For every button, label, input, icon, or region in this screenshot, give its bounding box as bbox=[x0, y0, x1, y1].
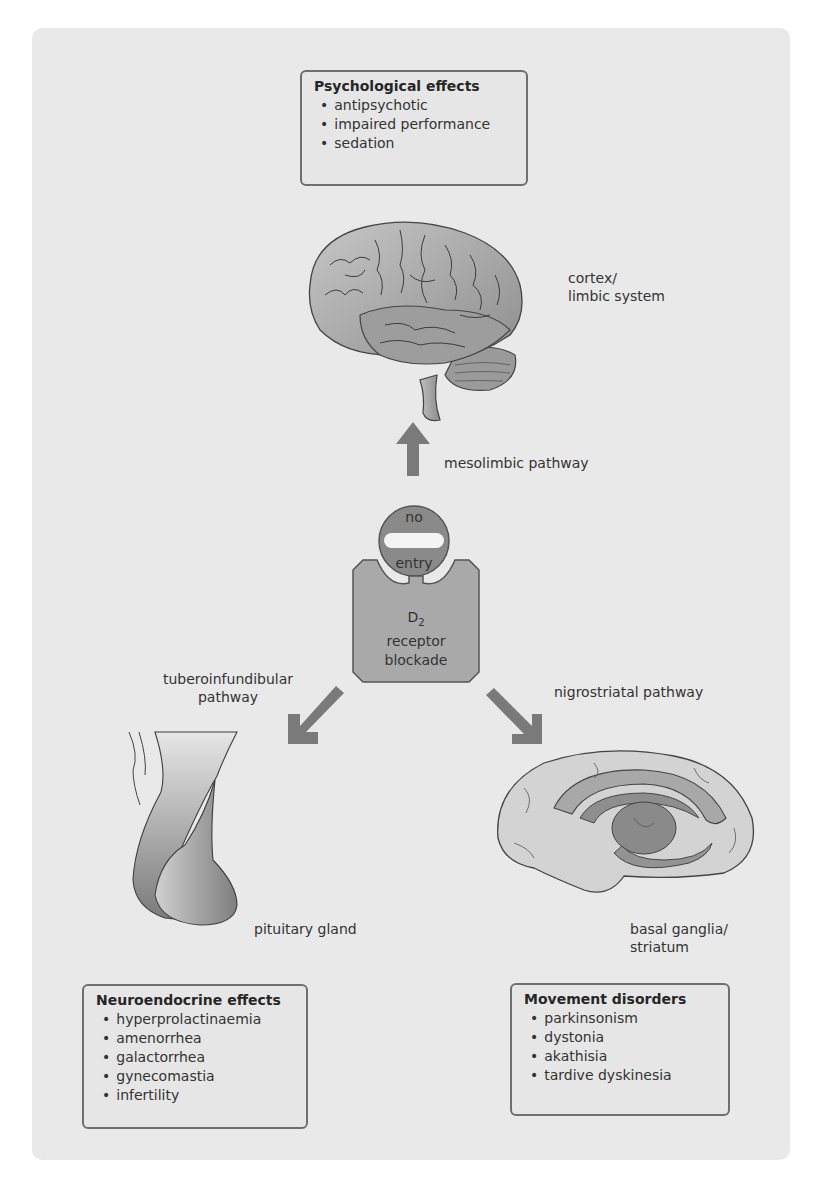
list-item: amenorrhea bbox=[102, 1029, 294, 1048]
cortex-label: cortex/ limbic system bbox=[568, 269, 665, 305]
movement-disorders-list: parkinsonism dystonia akathisia tardive … bbox=[524, 1009, 716, 1085]
tuberoinfundibular-line2: pathway bbox=[158, 688, 298, 706]
neuroendocrine-effects-box: Neuroendocrine effects hyperprolactinaem… bbox=[82, 984, 308, 1129]
cortex-label-line1: cortex/ bbox=[568, 269, 665, 287]
list-item: galactorrhea bbox=[102, 1048, 294, 1067]
nigrostriatal-pathway-label: nigrostriatal pathway bbox=[554, 683, 703, 701]
brain-lateral-illustration bbox=[305, 215, 545, 425]
basal-ganglia-line1: basal ganglia/ bbox=[630, 920, 728, 938]
neuroendocrine-effects-title: Neuroendocrine effects bbox=[96, 992, 294, 1008]
brain-medial-illustration bbox=[494, 748, 760, 900]
movement-disorders-box: Movement disorders parkinsonism dystonia… bbox=[510, 983, 730, 1116]
no-entry-top-label: no bbox=[378, 508, 450, 526]
nigrostriatal-arrow-icon bbox=[486, 688, 542, 746]
tuberoinfundibular-arrow-icon bbox=[288, 686, 344, 746]
list-item: infertility bbox=[102, 1086, 294, 1105]
list-item: hyperprolactinaemia bbox=[102, 1010, 294, 1029]
d2-subscript: 2 bbox=[418, 617, 424, 628]
mesolimbic-arrow-up-icon bbox=[396, 422, 430, 476]
receptor-label-line2: receptor bbox=[353, 632, 479, 651]
basal-ganglia-label: basal ganglia/ striatum bbox=[630, 920, 728, 956]
psychological-effects-list: antipsychotic impaired performance sedat… bbox=[314, 96, 514, 153]
tuberoinfundibular-pathway-label: tuberoinfundibular pathway bbox=[158, 670, 298, 706]
psychological-effects-box: Psychological effects antipsychotic impa… bbox=[300, 70, 528, 186]
psychological-effects-title: Psychological effects bbox=[314, 78, 514, 94]
d2-receptor-label: D2 receptor blockade bbox=[353, 608, 479, 670]
basal-ganglia-line2: striatum bbox=[630, 938, 728, 956]
list-item: antipsychotic bbox=[320, 96, 514, 115]
list-item: sedation bbox=[320, 134, 514, 153]
d2-letter: D bbox=[407, 609, 418, 625]
list-item: impaired performance bbox=[320, 115, 514, 134]
list-item: dystonia bbox=[530, 1028, 716, 1047]
pituitary-gland-illustration bbox=[125, 730, 245, 930]
cortex-label-line2: limbic system bbox=[568, 287, 665, 305]
pituitary-gland-label: pituitary gland bbox=[254, 920, 357, 938]
list-item: gynecomastia bbox=[102, 1067, 294, 1086]
list-item: parkinsonism bbox=[530, 1009, 716, 1028]
tuberoinfundibular-line1: tuberoinfundibular bbox=[158, 670, 298, 688]
neuroendocrine-effects-list: hyperprolactinaemia amenorrhea galactorr… bbox=[96, 1010, 294, 1105]
d2-label: D2 bbox=[353, 608, 479, 632]
list-item: akathisia bbox=[530, 1047, 716, 1066]
receptor-label-line3: blockade bbox=[353, 651, 479, 670]
mesolimbic-pathway-label: mesolimbic pathway bbox=[444, 454, 589, 472]
list-item: tardive dyskinesia bbox=[530, 1066, 716, 1085]
movement-disorders-title: Movement disorders bbox=[524, 991, 716, 1007]
